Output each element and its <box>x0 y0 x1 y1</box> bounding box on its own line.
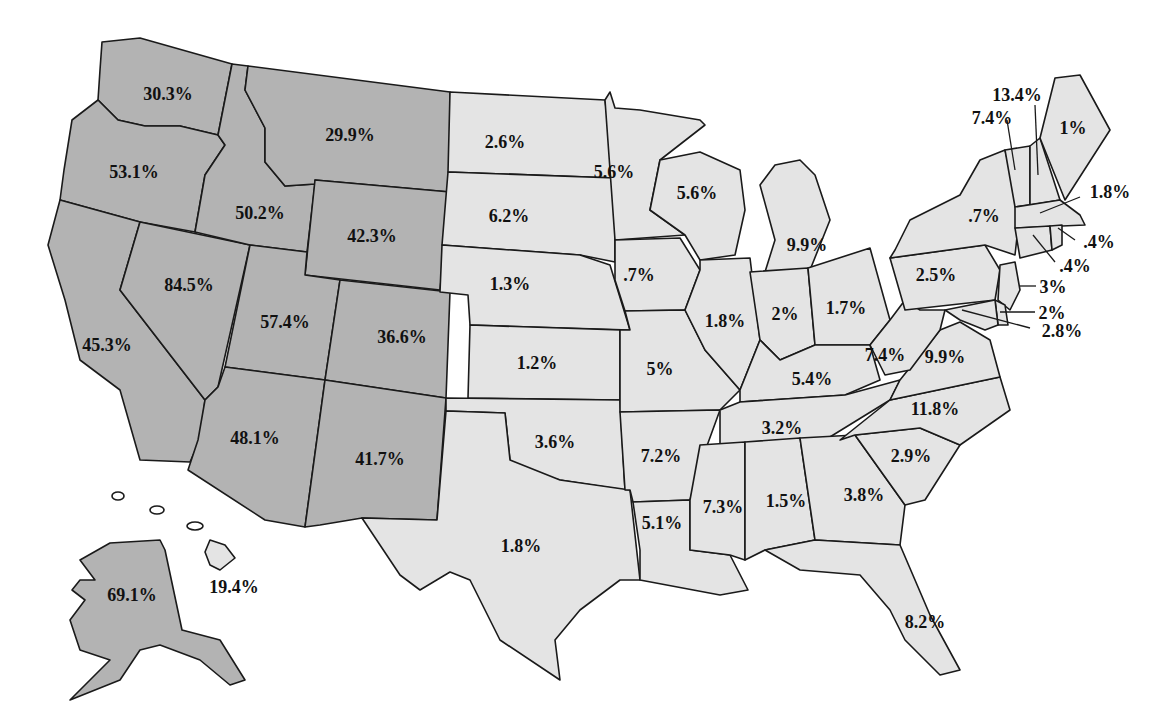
hawaii-island-small <box>187 522 203 530</box>
label-hawaii: 19.4% <box>209 578 259 596</box>
label-washington: 30.3% <box>143 85 193 103</box>
label-montana: 29.9% <box>325 126 375 144</box>
label-new-jersey: 3% <box>1040 278 1067 296</box>
label-massachusetts: 1.8% <box>1090 183 1131 201</box>
label-alabama: 1.5% <box>766 492 807 510</box>
state-ohio <box>808 248 890 345</box>
state-michigan <box>760 160 830 272</box>
label-kansas: 1.2% <box>517 354 558 372</box>
label-vermont: 7.4% <box>972 109 1013 127</box>
label-maine: 1% <box>1060 119 1087 137</box>
label-california: 45.3% <box>82 336 132 354</box>
label-connecticut: .4% <box>1059 257 1091 275</box>
label-mississippi: 7.3% <box>703 498 744 516</box>
label-ohio: 1.7% <box>826 299 867 317</box>
label-illinois: 1.8% <box>705 312 746 330</box>
label-rhode-island: .4% <box>1083 233 1115 251</box>
label-michigan: 9.9% <box>787 236 828 254</box>
label-nevada: 84.5% <box>164 276 214 294</box>
label-nebraska: 1.3% <box>490 275 531 293</box>
label-louisiana: 5.1% <box>642 514 683 532</box>
hawaii-island-small <box>112 492 124 500</box>
label-utah: 57.4% <box>260 313 310 331</box>
label-indiana: 2% <box>772 305 799 323</box>
label-oklahoma: 3.6% <box>535 433 576 451</box>
label-arkansas: 7.2% <box>641 447 682 465</box>
label-colorado: 36.6% <box>377 328 427 346</box>
label-iowa: .7% <box>623 266 655 284</box>
label-oregon: 53.1% <box>109 163 159 181</box>
label-north-dakota: 2.6% <box>485 133 526 151</box>
state-new-york <box>890 150 1020 258</box>
label-new-hampshire: 13.4% <box>992 86 1042 104</box>
state-connecticut <box>1015 226 1052 258</box>
label-pennsylvania: 2.5% <box>916 266 957 284</box>
label-texas: 1.8% <box>501 537 542 555</box>
label-delaware: 2% <box>1039 304 1066 322</box>
hawaii-island-small <box>150 506 164 514</box>
label-tennessee: 3.2% <box>762 419 803 437</box>
label-wyoming: 42.3% <box>347 227 397 245</box>
state-north-dakota <box>448 92 615 178</box>
label-west-virginia: 7.4% <box>865 346 906 364</box>
label-minnesota: 5.6% <box>594 163 635 181</box>
label-arizona: 48.1% <box>230 429 280 447</box>
label-missouri: 5% <box>647 360 674 378</box>
label-south-dakota: 6.2% <box>489 207 530 225</box>
label-kentucky: 5.4% <box>792 370 833 388</box>
label-south-carolina: 2.9% <box>891 447 932 465</box>
label-georgia: 3.8% <box>844 486 885 504</box>
state-florida <box>765 540 960 675</box>
label-new-york: .7% <box>968 207 1000 225</box>
label-virginia: 9.9% <box>925 348 966 366</box>
label-maryland: 2.8% <box>1042 322 1083 340</box>
label-north-carolina: 11.8% <box>911 400 960 418</box>
state-hawaii <box>205 540 235 570</box>
label-alaska: 69.1% <box>107 586 157 604</box>
label-florida: 8.2% <box>905 613 946 631</box>
label-new-mexico: 41.7% <box>355 450 405 468</box>
state-rhode-island <box>1050 225 1062 250</box>
label-wisconsin: 5.6% <box>677 184 718 202</box>
label-idaho: 50.2% <box>235 204 285 222</box>
